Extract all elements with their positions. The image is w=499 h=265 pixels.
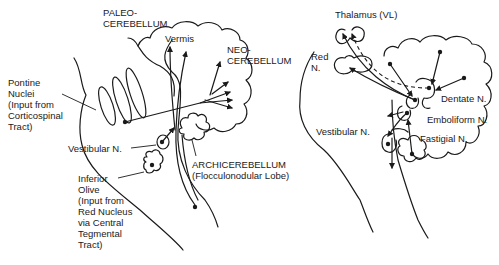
label-left-vestibular-n: Vestibular N. — [68, 143, 122, 154]
red-nucleus — [334, 56, 372, 74]
label-vermis: Vermis — [165, 33, 194, 44]
left-vestibular-nucleus — [131, 128, 174, 149]
label-archicerebellum: ARCHICEREBELLUM (Flocculonodular Lobe) — [192, 159, 289, 181]
right-brainstem-outline — [300, 52, 428, 238]
label-right-vestibular-n: Vestibular N. — [316, 126, 370, 137]
label-paleocerebellum: PALEO- CEREBELLUM — [103, 7, 167, 29]
label-fastigial-n: Fastigial N. — [420, 133, 468, 144]
label-pontine-nuclei: Pontine Nuclei (Input from Corticospinal… — [8, 77, 63, 132]
thalamus — [336, 27, 364, 44]
label-inferior-olive: Inferior Olive (Input from Red Nucleus v… — [78, 173, 132, 250]
pontine-leader-line — [62, 94, 96, 110]
label-dentate-n: Dentate N. — [441, 93, 486, 104]
label-red-n: Red N. — [311, 51, 328, 73]
label-emboliform-n: Emboliform N. — [427, 114, 487, 125]
label-thalamus: Thalamus (VL) — [335, 9, 397, 20]
label-neocerebellum: NEO- CEREBELLUM — [227, 44, 291, 66]
